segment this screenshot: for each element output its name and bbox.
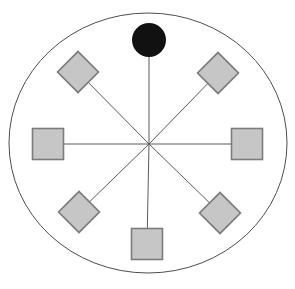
node-top-circle	[132, 23, 166, 57]
node-left-square	[33, 129, 64, 160]
figure	[0, 0, 295, 289]
star-diagram	[0, 0, 295, 289]
node-bottom-square	[132, 229, 163, 260]
node-right-square	[232, 129, 263, 160]
